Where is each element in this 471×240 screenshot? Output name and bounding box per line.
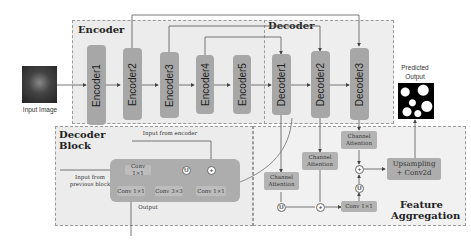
decoder-bottom-conv2: Conv 3×3 [155,186,183,196]
encoder5-block: Encoder5 [233,55,251,114]
fa-conv: Conv 1×1 [341,201,377,212]
fa-upsample-node-1: U [277,203,286,212]
fa-upsample-node-2: U [355,184,364,193]
decoder-upsample-node: U [182,166,191,175]
predicted-output-image [398,83,434,119]
encoder4-block: Encoder4 [196,55,214,114]
decoder-output-label: Output [133,204,163,211]
input-from-encoder-label: Input from encoder [130,130,210,137]
channel-attention-2: ChannelAttention [302,152,338,170]
decoder3-block: Decoder3 [350,48,369,120]
decoder2-block: Decoder2 [311,51,330,118]
decoder-bottom-conv3: Conv 1×1 [196,186,226,196]
predicted-output-label-line2: Output [393,73,437,81]
decoder-bottom-conv1: Conv 1×1 [117,186,145,196]
encoder1-block: Encoder1 [87,45,106,125]
decoder-top-conv: Conv 1×1 [125,165,151,175]
fa-add-node-2: + [355,165,364,174]
decoder-concat-node: + [207,166,216,175]
input-image [22,66,57,103]
encoder3-block: Encoder3 [160,52,179,118]
upsampling-conv2d: Upsampling+ Conv2d [387,158,441,180]
fa-add-node-1: + [316,203,325,212]
predicted-output-label-line1: Predicted [393,64,437,72]
input-image-label: Input Image [14,106,66,114]
encoder2-block: Encoder2 [123,48,142,120]
decoder1-block: Decoder1 [272,54,291,115]
channel-attention-1: ChannelAttention [264,172,299,190]
channel-attention-3: ChannelAttention [341,131,377,149]
